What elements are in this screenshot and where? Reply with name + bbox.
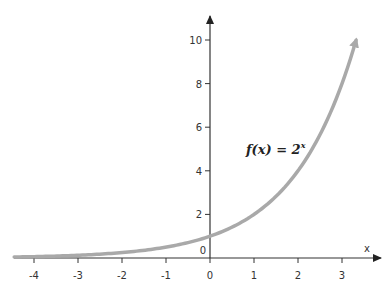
x-tick-label: 2 — [295, 270, 301, 281]
y-tick-label: 6 — [196, 122, 202, 133]
y-tick-label: 10 — [189, 35, 202, 46]
x-axis-label: x — [364, 243, 370, 254]
x-tick-label: 1 — [251, 270, 257, 281]
x-tick-label: 3 — [339, 270, 345, 281]
x-tick-label: -2 — [117, 270, 127, 281]
x-tick-label: -1 — [161, 270, 171, 281]
y-axis-ticks: 246810 — [189, 35, 210, 220]
y-tick-label: 2 — [196, 209, 202, 220]
x-tick-label: -4 — [29, 270, 39, 281]
origin-label: 0 — [200, 245, 206, 256]
exponential-function-chart: -4-3-2-10123 246810 x 0 f(x) = 2x — [0, 0, 392, 297]
function-label-exponent: x — [300, 140, 306, 150]
function-label-base: f(x) = 2 — [245, 142, 301, 157]
function-label: f(x) = 2x — [245, 140, 306, 157]
y-tick-label: 8 — [196, 79, 202, 90]
x-tick-label: -3 — [73, 270, 83, 281]
x-axis-ticks: -4-3-2-10123 — [29, 258, 345, 281]
y-tick-label: 4 — [196, 166, 202, 177]
x-tick-label: 0 — [207, 270, 213, 281]
